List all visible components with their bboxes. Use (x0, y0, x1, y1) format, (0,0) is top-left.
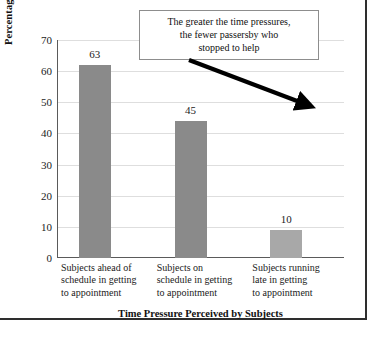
y-axis-tick-label: 60 (41, 66, 52, 77)
bar-chart-figure: Percentage of Subjects Offering Help 010… (0, 0, 370, 337)
bar-value-label: 10 (281, 214, 292, 225)
callout-line-3: stopped to help (145, 41, 313, 54)
category-label-line: schedule in getting (61, 274, 153, 286)
category-label-line: to appointment (61, 287, 153, 299)
y-axis-tick-label: 40 (41, 128, 52, 139)
bar (270, 230, 302, 258)
callout-line-1: The greater the time pressures, (145, 15, 313, 28)
category-label: Subjects ahead ofschedule in gettingto a… (57, 262, 153, 299)
bar (175, 121, 207, 258)
plot-area: 010203040506070 634510 (57, 40, 344, 258)
bar (79, 65, 111, 258)
category-labels-group: Subjects ahead ofschedule in gettingto a… (57, 262, 344, 299)
bar-value-label: 63 (89, 49, 100, 60)
callout-line-2: the fewer passersby who (145, 28, 313, 41)
x-axis-title: Time Pressure Perceived by Subjects (57, 308, 344, 319)
y-axis-tick-label: 70 (41, 35, 52, 46)
y-axis-tick-label: 30 (41, 159, 52, 170)
category-label-line: schedule in getting (157, 274, 249, 286)
category-label-line: to appointment (157, 287, 249, 299)
callout-annotation-box: The greater the time pressures, the fewe… (139, 10, 319, 60)
category-label: Subjects runninglate in gettingto appoin… (248, 262, 344, 299)
category-label-line: to appointment (252, 287, 344, 299)
y-axis-tick-label: 50 (41, 97, 52, 108)
category-label-line: Subjects running (252, 262, 344, 274)
y-axis-title: Percentage of Subjects Offering Help (3, 0, 14, 45)
category-label-line: Subjects on (157, 262, 249, 274)
figure-frame-right-rule (365, 0, 367, 318)
y-axis-tick-label: 20 (41, 190, 52, 201)
y-axis-tick-label: 10 (41, 221, 52, 232)
category-label-line: late in getting (252, 274, 344, 286)
category-label-line: Subjects ahead of (61, 262, 153, 274)
y-axis-tick-label: 0 (47, 253, 53, 264)
bar-value-label: 45 (185, 105, 196, 116)
y-axis-line (57, 40, 58, 258)
category-label: Subjects onschedule in gettingto appoint… (153, 262, 249, 299)
